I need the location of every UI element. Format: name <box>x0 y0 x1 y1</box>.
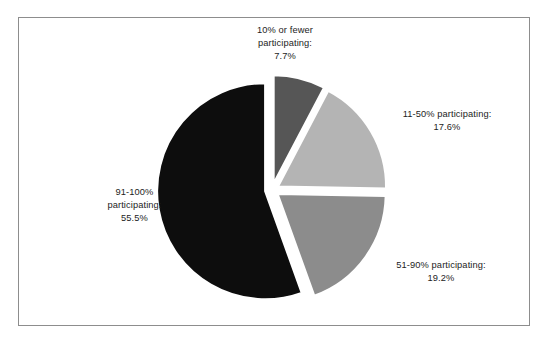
pie-label-line2: participating: <box>215 37 355 50</box>
chart-figure: 10% or fewer participating: 7.7% 11-50% … <box>0 0 549 344</box>
pie-label-51-90: 51-90% participating: 19.2% <box>366 259 516 285</box>
pie-label-10-or-fewer: 10% or fewer participating: 7.7% <box>215 24 355 64</box>
pie-label-value: 7.7% <box>215 50 355 63</box>
pie-label-value: 55.5% <box>72 212 197 225</box>
pie-label-line1: 91-100% <box>72 186 197 199</box>
pie-label-91-100: 91-100% participating: 55.5% <box>72 186 197 226</box>
pie-label-11-50: 11-50% participating: 17.6% <box>372 108 522 134</box>
pie-label-value: 19.2% <box>366 272 516 285</box>
pie-label-line1: 11-50% participating: <box>372 108 522 121</box>
pie-label-value: 17.6% <box>372 121 522 134</box>
pie-label-line1: 51-90% participating: <box>366 259 516 272</box>
pie-label-line1: 10% or fewer <box>215 24 355 37</box>
pie-label-line2: participating: <box>72 199 197 212</box>
